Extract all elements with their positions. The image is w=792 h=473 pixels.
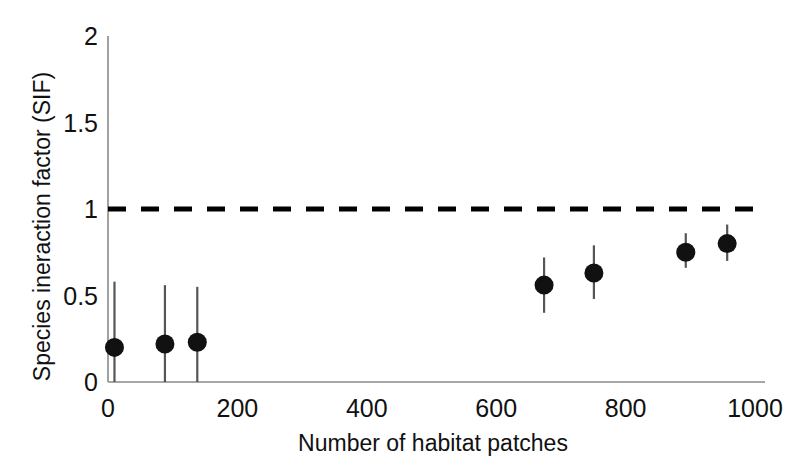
data-point-marker	[105, 338, 124, 357]
x-tick-label: 1000	[727, 396, 783, 421]
data-point-marker	[535, 276, 554, 295]
x-axis-title: Number of habitat patches	[108, 432, 758, 455]
x-tick-label: 800	[605, 396, 647, 421]
data-point-marker	[584, 264, 603, 283]
x-tick-label: 400	[346, 396, 388, 421]
axes-group	[108, 36, 765, 382]
y-axis-title: Species ineraction factor (SIF)	[31, 42, 54, 412]
x-tick-label: 200	[217, 396, 259, 421]
data-point-marker	[155, 334, 174, 353]
data-markers-group	[105, 234, 737, 357]
error-bars-group	[114, 225, 727, 382]
plot-canvas	[0, 0, 792, 473]
figure-chart: 00.511.52 02004006008001000 Species iner…	[0, 0, 792, 473]
x-tick-label: 0	[101, 396, 115, 421]
data-point-marker	[718, 234, 737, 253]
x-tick-label: 600	[475, 396, 517, 421]
data-point-marker	[676, 243, 695, 262]
data-point-marker	[188, 333, 207, 352]
